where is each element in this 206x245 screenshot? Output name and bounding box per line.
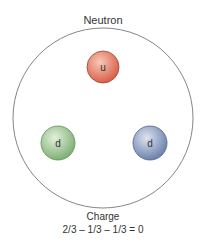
charge-label: Charge xyxy=(87,211,120,222)
charge-equation: 2/3 – 1/3 – 1/3 = 0 xyxy=(63,224,144,235)
quark-up-label: u xyxy=(100,62,106,73)
neutron-diagram: Neutron u d d Charge 2/3 – 1/3 – 1/3 = 0 xyxy=(0,0,206,245)
quark-up: u xyxy=(87,51,119,83)
quark-down-green: d xyxy=(41,126,75,160)
quark-down-blue: d xyxy=(133,126,167,160)
quark-down-blue-label: d xyxy=(147,138,153,149)
quark-down-green-label: d xyxy=(55,138,61,149)
neutron-title: Neutron xyxy=(83,14,122,26)
